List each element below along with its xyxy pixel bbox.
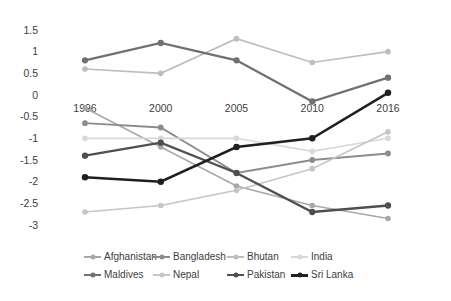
legend-label: Afghanistan xyxy=(104,251,157,262)
legend-item-sri-lanka: Sri Lanka xyxy=(291,268,353,281)
data-point-bhutan-2005 xyxy=(234,36,240,42)
legend-label: Bhutan xyxy=(247,251,279,262)
legend-item-pakistan: Pakistan xyxy=(227,268,291,281)
data-point-pakistan-2010 xyxy=(309,209,315,215)
legend-item-bhutan: Bhutan xyxy=(227,250,291,263)
data-point-bhutan-1996 xyxy=(82,66,88,72)
data-point-nepal-2010 xyxy=(309,166,315,172)
data-point-bhutan-2010 xyxy=(309,60,315,66)
data-point-sri-lanka-2005 xyxy=(233,144,240,151)
legend-label: Pakistan xyxy=(247,269,285,280)
legend-item-afghanistan: Afghanistan xyxy=(84,250,153,263)
data-point-maldives-1996 xyxy=(82,57,88,63)
data-point-afghanistan-2010 xyxy=(309,203,315,209)
data-point-india-1996 xyxy=(82,136,88,142)
legend-line-marker-icon xyxy=(227,252,244,261)
legend-line-marker-icon xyxy=(153,252,170,261)
data-point-india-2016 xyxy=(385,136,391,142)
data-point-sri-lanka-2016 xyxy=(385,90,392,97)
data-point-bhutan-2016 xyxy=(385,49,391,55)
data-point-maldives-2000 xyxy=(158,40,164,46)
data-point-maldives-2010 xyxy=(309,98,315,104)
data-point-maldives-2016 xyxy=(385,75,391,81)
series-line-afghanistan xyxy=(85,108,388,219)
data-point-sri-lanka-1996 xyxy=(82,174,89,181)
legend-label: Nepal xyxy=(173,269,199,280)
line-chart: 1.510.50-0.5-1-1.5-2-2.5-3 1996200020052… xyxy=(0,0,451,301)
data-point-pakistan-2005 xyxy=(233,170,239,176)
data-point-bangladesh-2000 xyxy=(158,125,164,131)
legend-label: Bangladesh xyxy=(173,251,226,262)
legend-label: Maldives xyxy=(104,269,143,280)
series-line-bhutan xyxy=(85,39,388,74)
legend-line-marker-icon xyxy=(153,270,170,279)
legend-label: India xyxy=(311,251,333,262)
data-point-nepal-2005 xyxy=(234,188,240,194)
data-point-india-2010 xyxy=(309,149,315,155)
legend-line-marker-icon xyxy=(84,270,101,279)
legend-line-marker-icon xyxy=(227,270,244,279)
data-point-bangladesh-2016 xyxy=(385,151,391,157)
data-point-pakistan-2016 xyxy=(385,202,391,208)
data-point-bangladesh-1996 xyxy=(82,120,88,126)
data-point-pakistan-1996 xyxy=(82,153,88,159)
legend-item-india: India xyxy=(291,250,353,263)
data-point-bhutan-2000 xyxy=(158,71,164,77)
data-point-india-2005 xyxy=(234,136,240,142)
legend-item-bangladesh: Bangladesh xyxy=(153,250,227,263)
legend-line-marker-icon xyxy=(84,252,101,261)
chart-legend: Afghanistan Bangladesh Bhutan India Mald… xyxy=(84,250,353,281)
data-point-afghanistan-2016 xyxy=(385,216,391,222)
data-point-sri-lanka-2010 xyxy=(309,135,316,142)
data-point-maldives-2005 xyxy=(233,57,239,63)
data-point-afghanistan-1996 xyxy=(82,105,88,111)
data-point-sri-lanka-2000 xyxy=(158,178,165,185)
data-point-nepal-2016 xyxy=(385,129,391,135)
legend-line-marker-icon xyxy=(291,270,308,279)
legend-line-marker-icon xyxy=(291,252,308,261)
legend-item-nepal: Nepal xyxy=(153,268,227,281)
legend-item-maldives: Maldives xyxy=(84,268,153,281)
data-point-bangladesh-2010 xyxy=(309,157,315,163)
data-point-pakistan-2000 xyxy=(158,140,164,146)
data-point-nepal-2000 xyxy=(158,203,164,209)
data-point-nepal-1996 xyxy=(82,209,88,215)
legend-label: Sri Lanka xyxy=(311,269,353,280)
